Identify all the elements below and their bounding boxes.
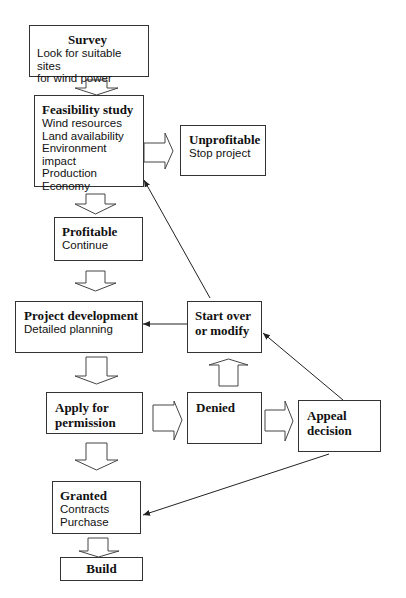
block-arrow-apply-granted: [75, 443, 118, 470]
node-denied-title: Denied: [196, 400, 261, 415]
node-build-title: Build: [61, 561, 142, 576]
line-arrow-appeal-granted: [143, 454, 329, 515]
node-feasibility-line: Land availability: [42, 130, 143, 143]
flowchart-canvas: Survey Look for suitable sites for wind …: [0, 0, 406, 598]
node-survey-line: Look for suitable sites: [37, 47, 148, 72]
node-unprofitable-line: Stop project: [189, 147, 265, 160]
block-arrow-denied-startover: [209, 359, 248, 386]
node-survey: Survey Look for suitable sites for wind …: [29, 25, 149, 77]
block-arrow-apply-denied: [153, 401, 182, 440]
node-profitable-line: Continue: [62, 239, 142, 252]
node-appeal-title: Appeal: [307, 408, 380, 423]
node-apply-title: permission: [55, 415, 142, 430]
node-denied: Denied: [187, 392, 262, 444]
block-arrow-feasibility-profitable: [75, 194, 116, 214]
node-start-over: Start over or modify: [187, 301, 262, 353]
block-arrow-feasibility-unprofitable: [144, 133, 173, 169]
node-appeal-decision: Appeal decision: [298, 400, 381, 452]
line-arrow-appeal-startover: [263, 333, 343, 400]
node-survey-title: Survey: [37, 32, 148, 47]
node-startover-title: or modify: [195, 323, 261, 338]
node-granted: Granted Contracts Purchase: [52, 481, 141, 534]
node-project-development: Project development Detailed planning: [15, 301, 143, 353]
node-development-line: Detailed planning: [24, 323, 142, 336]
node-apply-permission: Apply for permission: [46, 392, 143, 434]
node-feasibility: Feasibility study Wind resources Land av…: [34, 95, 144, 187]
node-feasibility-line: Wind resources: [42, 117, 143, 130]
node-feasibility-line: Economy: [42, 180, 143, 193]
block-arrow-profitable-development: [75, 271, 116, 291]
line-arrow-startover-feasibility: [144, 180, 210, 298]
node-feasibility-title: Feasibility study: [42, 102, 143, 117]
node-granted-line: Purchase: [60, 516, 140, 529]
node-development-title: Project development: [24, 308, 142, 323]
node-startover-title: Start over: [195, 308, 261, 323]
node-granted-title: Granted: [60, 488, 140, 503]
node-unprofitable-title: Unprofitable: [189, 132, 265, 147]
node-granted-line: Contracts: [60, 503, 140, 516]
node-survey-line: for wind power: [37, 72, 148, 85]
node-apply-title: Apply for: [55, 400, 142, 415]
node-unprofitable: Unprofitable Stop project: [180, 125, 266, 176]
node-build: Build: [60, 557, 143, 581]
block-arrow-denied-appeal: [265, 401, 293, 441]
node-appeal-title: decision: [307, 423, 380, 438]
block-arrow-granted-build: [79, 538, 119, 557]
node-profitable: Profitable Continue: [54, 217, 143, 261]
block-arrow-development-apply: [75, 357, 118, 384]
node-profitable-title: Profitable: [62, 224, 142, 239]
node-feasibility-line: Environment impact: [42, 142, 143, 167]
node-feasibility-line: Production: [42, 167, 143, 180]
